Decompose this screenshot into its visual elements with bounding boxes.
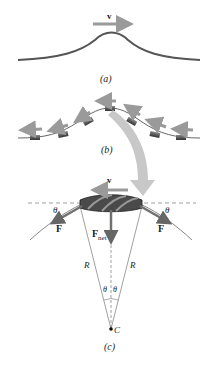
pulse-string [18,108,200,138]
panel-c: v θ θ F F Fnet R R θ θ C (c) [28,175,196,353]
string-segment [30,135,40,140]
center-point [109,327,113,331]
center-label: C [114,325,121,335]
pulse-string [18,33,200,61]
caption-a: (a) [100,73,112,85]
velocity-label: v [107,175,112,185]
velocity-arrow-icon [176,129,193,130]
velocity-arrow-icon [150,121,166,127]
panel-b: (b) [18,101,200,156]
wave-pulse-diagram: v (a) (b) [0,0,212,368]
caption-c: (c) [104,341,116,353]
force-arrow-right-icon [140,206,168,222]
angle-right-label: θ [165,205,170,215]
net-force-label: Fnet [92,228,107,242]
angle-center-left-label: θ [103,285,107,294]
string-segment [149,131,160,138]
string-segment [105,106,115,111]
angle-arc [104,299,118,301]
force-right-label: F [158,223,164,234]
string-segment-closeup [80,195,142,212]
angle-center-right-label: θ [113,285,117,294]
velocity-arrow-icon [24,129,42,130]
force-arrow-left-icon [54,206,82,222]
string-segment [176,135,186,140]
panel-a: v (a) [18,11,200,85]
radius-left-label: R [83,260,90,270]
angle-left-label: θ [53,205,58,215]
radius-line-right [111,206,142,329]
radius-right-label: R [129,260,136,270]
force-left-label: F [56,223,62,234]
velocity-label: v [107,11,112,21]
caption-b: (b) [101,144,113,156]
